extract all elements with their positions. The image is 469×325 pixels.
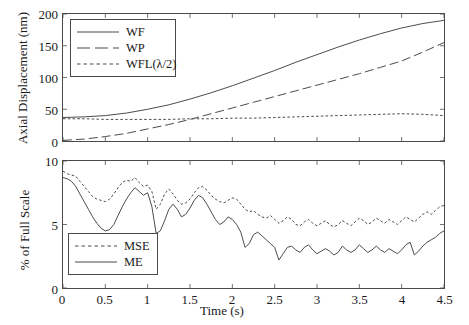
bottom-y-axis-label: % of Full Scale bbox=[17, 175, 33, 285]
top-ytick-150: 150 bbox=[39, 40, 59, 53]
legend-label-wfl: WFL(λ/2) bbox=[126, 58, 177, 71]
legend-label-mse: MSE bbox=[124, 240, 150, 253]
legend-item-wp: WP bbox=[76, 40, 169, 56]
series-wfl2 bbox=[63, 114, 444, 120]
top-ytick-50: 50 bbox=[45, 104, 58, 117]
xtick-0p5: 0.5 bbox=[96, 293, 112, 306]
bottom-ytick-0: 0 bbox=[52, 283, 59, 296]
legend-label-wf: WF bbox=[126, 26, 145, 39]
xtick-4: 4 bbox=[399, 293, 406, 306]
xtick-0: 0 bbox=[59, 293, 66, 306]
legend-sample-wp-longdash bbox=[76, 42, 120, 54]
xtick-1: 1 bbox=[144, 293, 151, 306]
xtick-1p5: 1.5 bbox=[181, 293, 197, 306]
top-y-axis-label: Axial Displacement (nm) bbox=[15, 3, 31, 153]
legend-item-mse: MSE bbox=[74, 238, 151, 254]
bottom-ytick-10: 10 bbox=[45, 155, 58, 168]
xtick-4p5: 4.5 bbox=[436, 293, 452, 306]
legend-label-wp: WP bbox=[126, 42, 145, 55]
legend-sample-mse-shortdash bbox=[74, 240, 118, 252]
legend-sample-wfl-shortdash bbox=[76, 58, 120, 70]
top-ytick-0: 0 bbox=[52, 136, 59, 149]
legend-item-me: ME bbox=[74, 254, 151, 270]
top-ytick-100: 100 bbox=[39, 72, 59, 85]
bottom-ytick-5: 5 bbox=[52, 219, 59, 232]
bottom-legend: MSE ME bbox=[68, 233, 158, 275]
legend-item-wf: WF bbox=[76, 24, 169, 40]
xtick-3: 3 bbox=[314, 293, 321, 306]
legend-label-me: ME bbox=[124, 256, 143, 269]
x-axis-label: Time (s) bbox=[200, 303, 244, 319]
series-mse bbox=[63, 171, 444, 227]
top-legend: WF WP WFL(λ/2) bbox=[70, 19, 176, 77]
legend-sample-wf-solid bbox=[76, 26, 120, 38]
figure-root: 200 150 100 50 0 Axial Displacement (nm)… bbox=[0, 0, 469, 325]
xtick-3p5: 3.5 bbox=[351, 293, 367, 306]
top-ytick-200: 200 bbox=[39, 8, 59, 21]
legend-sample-me-solid bbox=[74, 256, 118, 268]
xtick-2p5: 2.5 bbox=[266, 293, 282, 306]
legend-item-wfl: WFL(λ/2) bbox=[76, 56, 169, 72]
